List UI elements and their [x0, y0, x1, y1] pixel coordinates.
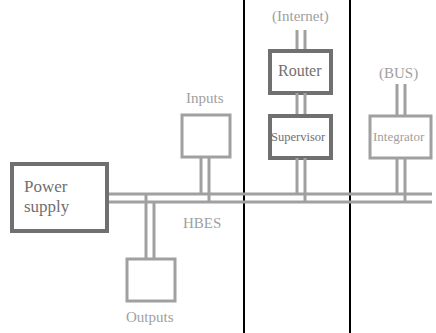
- power-supply-label-line2: supply: [24, 198, 69, 215]
- outputs-box: [127, 259, 175, 301]
- outputs-connector: [146, 194, 154, 260]
- router-supervisor-connector: [297, 93, 305, 116]
- hbes-bus: [108, 194, 432, 202]
- power-supply-label-line1: Power: [24, 178, 67, 195]
- hbes-label: HBES: [183, 216, 221, 231]
- bus-external-label: (BUS): [379, 66, 418, 81]
- diagram-canvas: [0, 0, 436, 333]
- internet-connector: [297, 30, 305, 52]
- inputs-label: Inputs: [186, 91, 224, 106]
- integrator-label: Integrator: [373, 130, 424, 143]
- internet-label: (Internet): [272, 9, 329, 24]
- router-label: Router: [278, 63, 322, 79]
- supervisor-label: Supervisor: [271, 131, 325, 144]
- inputs-box: [182, 115, 230, 157]
- bus-external-connector: [397, 84, 405, 116]
- outputs-label: Outputs: [126, 310, 174, 325]
